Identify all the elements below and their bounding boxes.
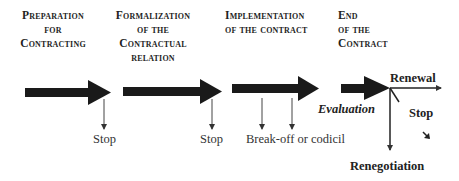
stop-label-1: Stop bbox=[93, 132, 116, 147]
phase-arrow-3 bbox=[232, 76, 319, 101]
phase-arrow-4 bbox=[341, 76, 390, 100]
renewal-label: Renewal bbox=[390, 71, 436, 86]
evaluation-label: Evaluation bbox=[318, 102, 375, 117]
stop-diagonal-line bbox=[390, 88, 399, 102]
phase-arrow-2 bbox=[123, 79, 222, 104]
stop-end-label: Stop bbox=[409, 106, 433, 121]
renegotiation-label: Renegotiation bbox=[350, 159, 424, 174]
stop-label-2: Stop bbox=[200, 132, 223, 147]
stop-diagonal-arrowhead bbox=[423, 132, 430, 139]
phase-arrow-1 bbox=[25, 80, 111, 105]
process-arrows bbox=[0, 0, 459, 181]
break-off-label: Break-off or codicil bbox=[246, 132, 345, 147]
